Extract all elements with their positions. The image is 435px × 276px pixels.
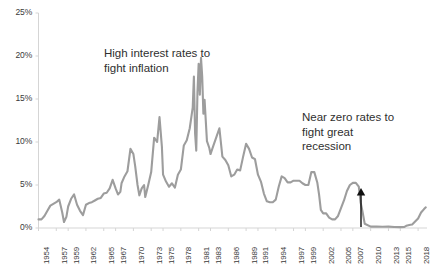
x-axis-tick-label: 1959 — [72, 247, 81, 264]
x-axis-tick-label: 1962 — [89, 247, 98, 264]
x-axis-tick-label: 2018 — [422, 247, 431, 264]
x-axis-tick-label: 1991 — [261, 247, 270, 264]
x-axis-tick-label: 2007 — [356, 247, 365, 264]
y-axis-tick-label: 5% — [2, 179, 32, 189]
y-axis-tick-label: 0% — [2, 222, 32, 232]
x-axis-tick-label: 2005 — [344, 247, 353, 264]
x-axis-tick-label: 1986 — [232, 247, 241, 264]
x-axis-tick-label: 1989 — [250, 247, 259, 264]
x-axis-tick-label: 2015 — [404, 247, 413, 264]
x-axis-tick-label: 1975 — [167, 247, 176, 264]
x-axis-tick-label: 1978 — [184, 247, 193, 264]
x-axis-tick-label: 1983 — [214, 247, 223, 264]
y-axis-tick-label: 20% — [2, 50, 32, 60]
x-axis-tick-label: 2002 — [327, 247, 336, 264]
x-axis-tick-label: 1997 — [297, 247, 306, 264]
interest-rate-chart: 0%5%10%15%20%25% 19541957195919621965196… — [0, 0, 435, 276]
x-axis-tick-label: 1994 — [279, 247, 288, 264]
x-axis-tick-label: 1957 — [60, 247, 69, 264]
x-axis-tick-label: 2013 — [392, 247, 401, 264]
y-axis-tick-label: 15% — [2, 93, 32, 103]
annotation-high-interest-rates: High interest rates to fight inflation — [104, 46, 210, 75]
x-axis-tick-label: 1981 — [202, 247, 211, 264]
x-axis-tick-label: 1954 — [42, 247, 51, 264]
y-axis-tick-label: 25% — [2, 7, 32, 17]
x-axis-tick-label: 1970 — [137, 247, 146, 264]
x-axis-tick-label: 1965 — [107, 247, 116, 264]
y-axis-tick-label: 10% — [2, 136, 32, 146]
x-axis-tick-label: 1999 — [309, 247, 318, 264]
annotation-near-zero-rates: Near zero rates to fight great recession — [302, 110, 394, 154]
x-axis-tick-label: 1973 — [155, 247, 164, 264]
x-axis-tick-label: 2010 — [374, 247, 383, 264]
x-axis-tick-label: 1967 — [119, 247, 128, 264]
